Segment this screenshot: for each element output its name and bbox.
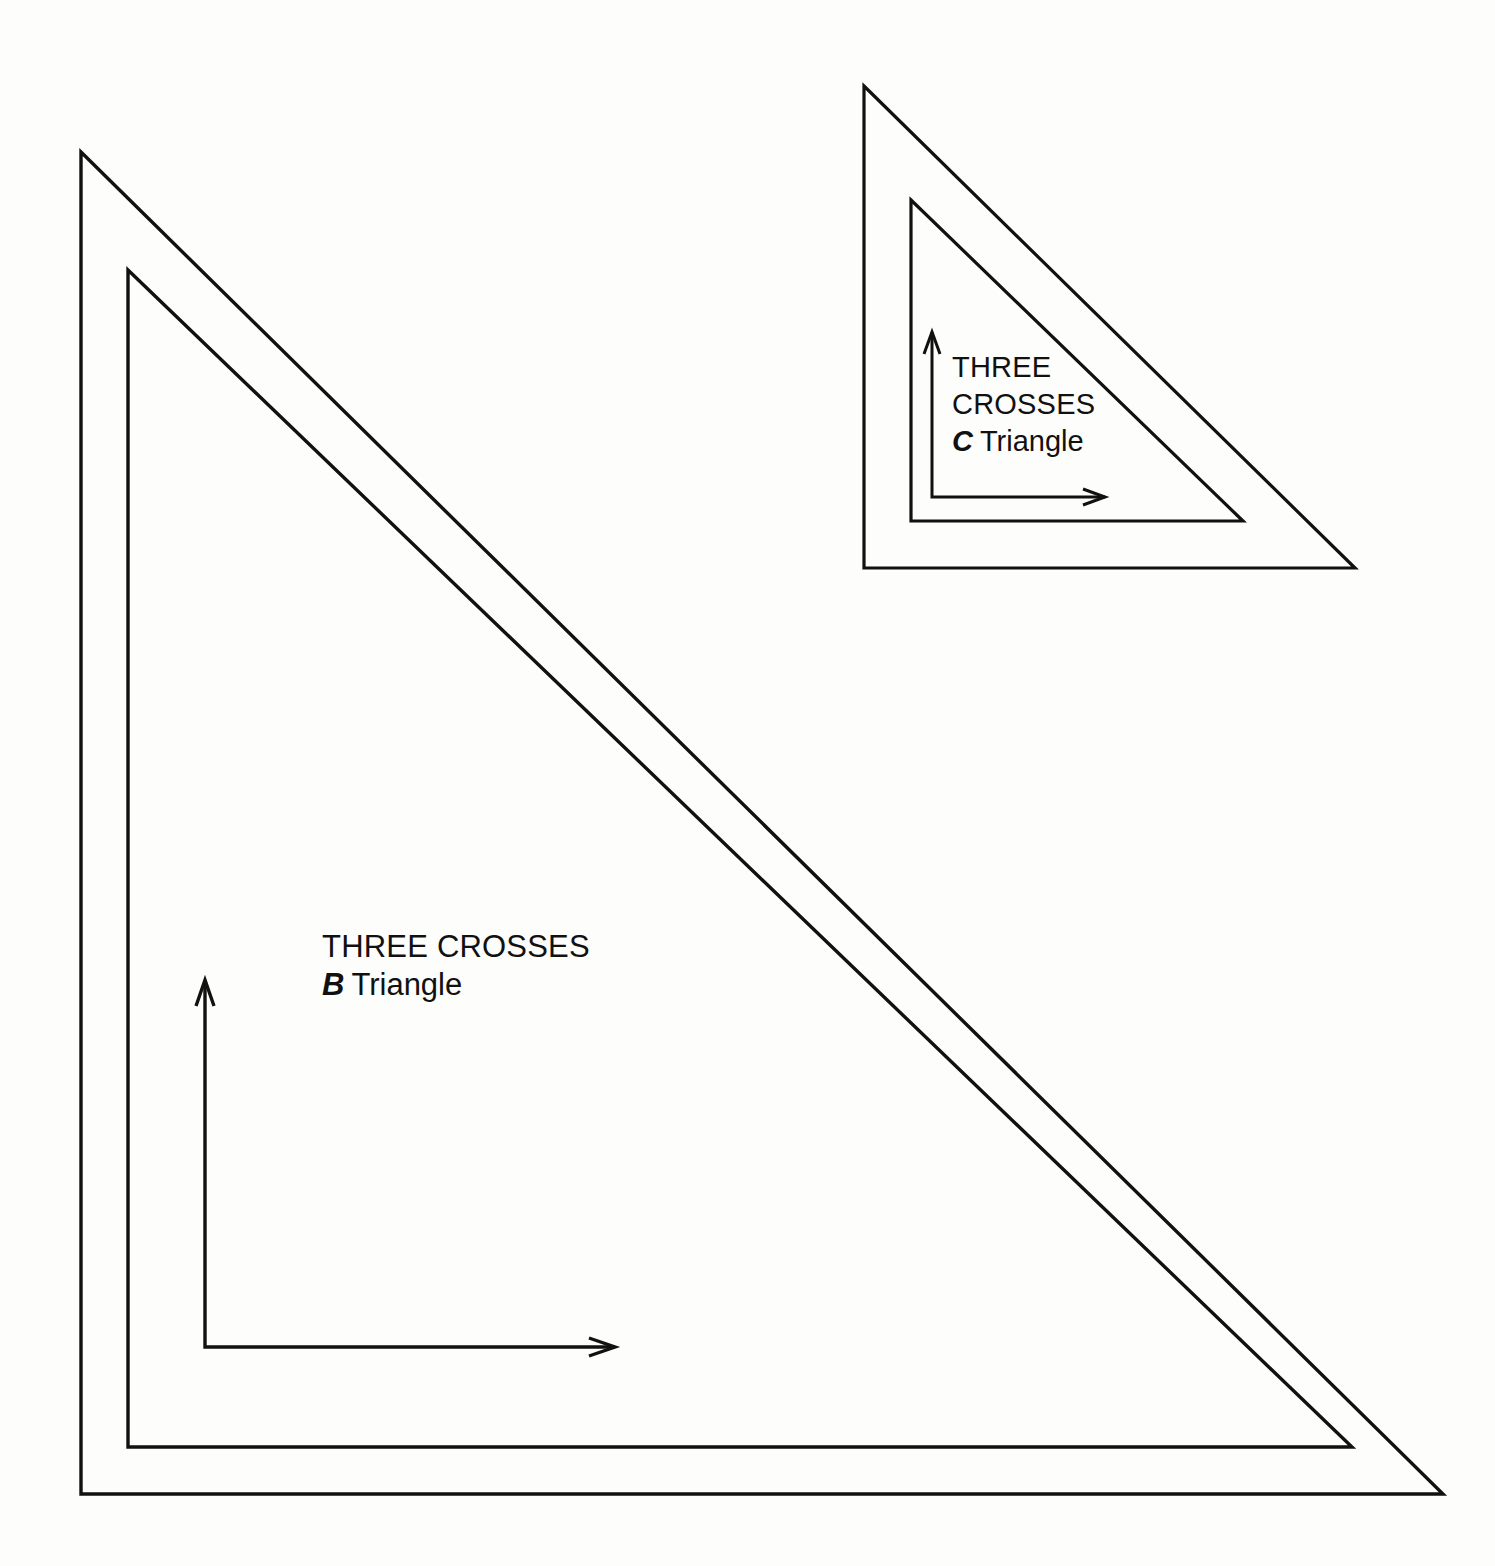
triangle-b-outer-outline (81, 152, 1443, 1494)
triangle-b-model-letter: B (322, 967, 344, 1002)
triangle-b-axis-shaft (205, 980, 615, 1347)
triangle-b-inner-outline (128, 270, 1352, 1447)
triangle-c-model-line: CTriangle (952, 425, 1084, 457)
triangle-c-model-word: Triangle (980, 425, 1084, 457)
triangle-b-model-word: Triangle (351, 967, 462, 1002)
triangle-b-model-line: BTriangle (322, 967, 462, 1002)
triangle-c-model-letter: C (952, 425, 974, 457)
triangle-b-brand-line: THREE CROSSES (322, 929, 590, 964)
triangle-c-brand-line: THREE (952, 351, 1051, 383)
drawing-canvas: THREE CROSSESBTriangleTHREECROSSESCTrian… (0, 0, 1495, 1566)
set-square-triangle-c: THREECROSSESCTriangle (864, 86, 1355, 568)
set-square-triangle-b: THREE CROSSESBTriangle (81, 152, 1443, 1494)
triangle-c-brand-line: CROSSES (952, 388, 1095, 420)
drawing-sheet: THREE CROSSESBTriangleTHREECROSSESCTrian… (0, 0, 1495, 1566)
